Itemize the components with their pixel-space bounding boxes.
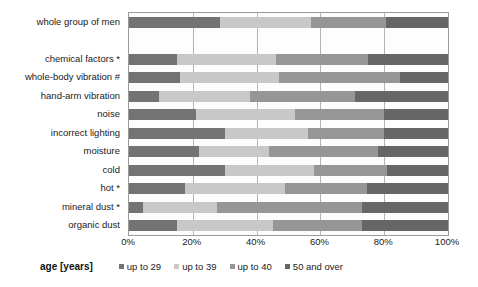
category-label: hot * [0, 182, 120, 193]
bar-segment [129, 165, 225, 176]
bar-row [129, 128, 448, 139]
category-label: organic dust [0, 219, 120, 230]
category-label: mineral dust * [0, 201, 120, 212]
x-tick-label: 40% [246, 236, 265, 248]
bar-segment [180, 72, 279, 83]
x-tick-label: 0% [121, 236, 135, 248]
legend-swatch-icon [230, 264, 235, 269]
bar-segment [362, 202, 448, 213]
bar-segment [384, 128, 448, 139]
bar-segment [159, 91, 250, 102]
bar-segment [308, 128, 385, 139]
bar-segment [129, 54, 177, 65]
legend-swatch-icon [174, 264, 179, 269]
plot-area [128, 12, 449, 236]
legend-item[interactable]: up to 40 [230, 261, 272, 272]
bar-segment [314, 165, 387, 176]
value-axis: 0%20%40%60%80%100% [128, 236, 449, 250]
chart-legend: age [years] up to 29up to 39up to 4050 a… [40, 258, 356, 274]
bar-segment [362, 220, 448, 231]
legend-label: up to 29 [127, 261, 161, 272]
bar-row [129, 54, 448, 65]
bar-segment [225, 128, 308, 139]
category-label: incorrect lighting [0, 127, 120, 138]
bar-row [129, 91, 448, 102]
x-tick-label: 20% [182, 236, 201, 248]
bar-segment [387, 165, 448, 176]
bar-row [129, 202, 448, 213]
bar-segment [217, 202, 362, 213]
bar-segment [311, 17, 386, 28]
legend-swatch-icon [119, 264, 124, 269]
legend-label: 50 and over [293, 261, 343, 272]
legend-item[interactable]: up to 29 [119, 261, 161, 272]
bar-segment [285, 183, 366, 194]
legend-title: age [years] [40, 261, 93, 272]
legend-swatch-icon [285, 264, 290, 269]
bar-segment [177, 54, 276, 65]
bar-segment [276, 54, 369, 65]
bar-segment [384, 109, 448, 120]
bar-segment [367, 183, 448, 194]
bar-segment [196, 109, 295, 120]
category-label: hand-arm vibration [0, 90, 120, 101]
legend-item[interactable]: up to 39 [174, 261, 216, 272]
bar-row [129, 165, 448, 176]
bar-row [129, 183, 448, 194]
bar-segment [269, 146, 377, 157]
legend-label: up to 40 [238, 261, 272, 272]
bar-row [129, 109, 448, 120]
bar-segment [177, 220, 273, 231]
bar-segment [386, 17, 448, 28]
bar-segment [273, 220, 362, 231]
legend-label: up to 39 [182, 261, 216, 272]
bar-segment [129, 183, 185, 194]
bar-segment [355, 91, 448, 102]
bar-segment [250, 91, 355, 102]
bar-row [129, 72, 448, 83]
bar-segment [220, 17, 311, 28]
bar-segment [279, 72, 400, 83]
category-label: moisture [0, 145, 120, 156]
x-tick-label: 60% [310, 236, 329, 248]
category-axis: whole group of menchemical factors *whol… [0, 12, 124, 234]
bar-segment [225, 165, 314, 176]
bar-segment [129, 91, 159, 102]
category-label: whole group of men [0, 16, 120, 27]
category-label: cold [0, 164, 120, 175]
category-label: noise [0, 108, 120, 119]
bar-row [129, 220, 448, 231]
bar-segment [129, 72, 180, 83]
category-label: whole-body vibration # [0, 71, 120, 82]
stacked-bar-chart: whole group of menchemical factors *whol… [0, 0, 478, 287]
legend-items: up to 29up to 39up to 4050 and over [119, 261, 356, 272]
bar-segment [199, 146, 269, 157]
bar-segment [143, 202, 216, 213]
x-tick-label: 100% [435, 236, 459, 248]
bar-segment [129, 109, 196, 120]
bar-segment [129, 146, 199, 157]
bar-segment [129, 128, 225, 139]
bar-segment [378, 146, 448, 157]
bar-segment [295, 109, 384, 120]
bar-segment [185, 183, 285, 194]
legend-item[interactable]: 50 and over [285, 261, 343, 272]
x-tick-label: 80% [374, 236, 393, 248]
bar-segment [368, 54, 448, 65]
bar-segment [400, 72, 448, 83]
category-label: chemical factors * [0, 53, 120, 64]
bar-row [129, 17, 448, 28]
bar-row [129, 146, 448, 157]
bar-segment [129, 17, 220, 28]
bar-segment [129, 220, 177, 231]
bar-segment [129, 202, 143, 213]
